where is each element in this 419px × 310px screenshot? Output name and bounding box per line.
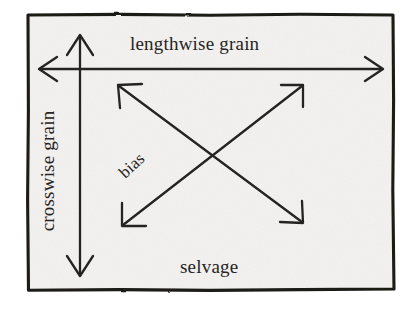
label-lengthwise-grain: lengthwise grain <box>130 33 259 55</box>
label-selvage: selvage <box>180 256 238 278</box>
fabric-swatch <box>28 14 394 290</box>
label-crosswise-grain: crosswise grain <box>37 111 59 232</box>
fabric-fill <box>29 15 394 290</box>
fabric-grain-diagram: lengthwise grain crosswise grain bias se… <box>0 0 419 310</box>
